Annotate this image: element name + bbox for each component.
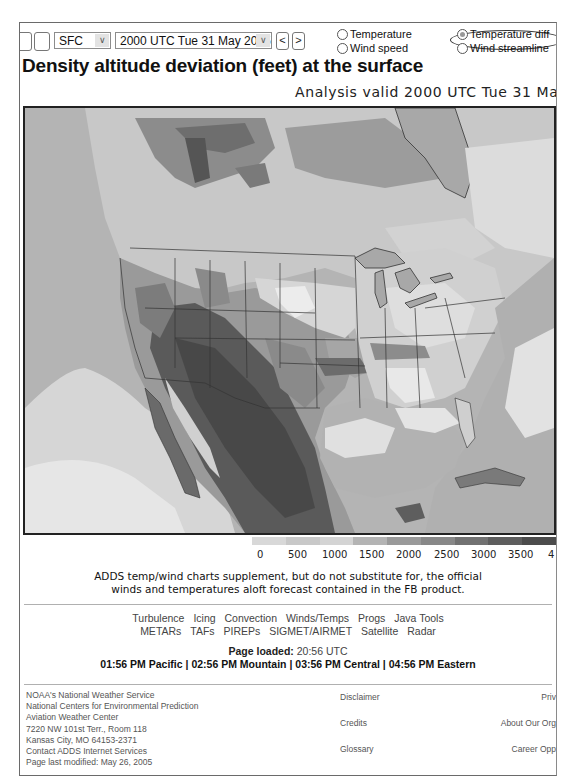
analysis-valid-subtitle: Analysis valid 2000 UTC Tue 31 May: [295, 84, 557, 100]
time-pacific: 01:56 PM Pacific: [100, 658, 182, 670]
radio-wind-streamline[interactable]: Wind streamline: [457, 42, 549, 54]
footer-line: Kansas City, MO 64153-2371: [26, 735, 198, 746]
link-java-tools[interactable]: Java Tools: [394, 612, 443, 624]
footer-last-modified: Page last modified: May 26, 2005: [26, 757, 198, 768]
chevron-down-icon: ∨: [95, 34, 109, 47]
link-winds-temps[interactable]: Winds/Temps: [286, 612, 349, 624]
radio-selected-icon: [457, 29, 468, 40]
link-privacy[interactable]: Priv: [541, 692, 556, 702]
footer-line: 7220 NW 101st Terr., Room 118: [26, 724, 198, 735]
footer-line[interactable]: NOAA's National Weather Service: [26, 690, 198, 701]
legend-label: 1000: [322, 549, 347, 560]
page-frame: SFC ∨ 2000 UTC Tue 31 May 2005 ∨ < > Tem…: [19, 22, 557, 776]
divider: [24, 604, 552, 605]
legend-label: 4: [548, 549, 554, 560]
radio-label: Temperature diff: [470, 28, 549, 40]
nav-links-row-2: METARs TAFs PIREPs SIGMET/AIRMET Satelli…: [20, 625, 556, 638]
disclaimer-line-1: ADDS temp/wind charts supplement, but do…: [20, 570, 556, 583]
legend-label: 2000: [396, 549, 421, 560]
legend-label: 3000: [471, 549, 496, 560]
previous-time-button[interactable]: <: [276, 32, 289, 50]
page-loaded: Page loaded: 20:56 UTC: [20, 645, 556, 657]
footer-contact-link[interactable]: Contact ADDS Internet Services: [26, 746, 198, 757]
legend-swatch: [455, 537, 489, 545]
radio-label: Wind streamline: [470, 42, 549, 54]
page-loaded-label: Page loaded:: [228, 645, 293, 657]
footer-address: NOAA's National Weather Service National…: [26, 690, 198, 768]
radio-circle-icon: [337, 29, 348, 40]
legend-label: 3500: [508, 549, 533, 560]
radio-circle-icon: [457, 43, 468, 54]
radio-temperature-diff[interactable]: Temperature diff: [457, 28, 549, 40]
checkbox-1[interactable]: [19, 32, 32, 51]
radio-temperature[interactable]: Temperature: [337, 28, 412, 40]
link-turbulence[interactable]: Turbulence: [132, 612, 184, 624]
legend-swatch: [286, 537, 320, 545]
nav-links-row-1: Turbulence Icing Convection Winds/Temps …: [20, 612, 556, 625]
checkbox-2[interactable]: [34, 32, 50, 51]
radio-circle-icon: [337, 43, 348, 54]
legend-label: 500: [288, 549, 307, 560]
page-loaded-value: 20:56 UTC: [297, 645, 348, 657]
time-select-value: 2000 UTC Tue 31 May 2005: [120, 34, 271, 48]
disclaimer-line-2: winds and temperatures aloft forecast co…: [20, 583, 556, 596]
time-eastern: 04:56 PM Eastern: [389, 658, 476, 670]
level-select-value: SFC: [59, 34, 83, 48]
toolbar: SFC ∨ 2000 UTC Tue 31 May 2005 ∨ < > Tem…: [20, 31, 556, 51]
link-convection[interactable]: Convection: [225, 612, 278, 624]
legend-label: 0: [257, 549, 263, 560]
link-about-our-org[interactable]: About Our Org: [501, 718, 556, 728]
legend-swatch: [320, 537, 354, 545]
legend-swatch: [353, 537, 387, 545]
map-graphic: [25, 108, 554, 533]
time-central: 03:56 PM Central: [295, 658, 380, 670]
disclaimer-text: ADDS temp/wind charts supplement, but do…: [20, 570, 556, 596]
separator: |: [287, 658, 296, 670]
link-icing[interactable]: Icing: [193, 612, 215, 624]
legend-labels: 0 500 1000 1500 2000 2500 3000 3500 4: [248, 549, 557, 563]
legend-label: 1500: [359, 549, 384, 560]
legend-color-bar: [252, 537, 556, 545]
legend-label: 2500: [434, 549, 459, 560]
legend-swatch: [421, 537, 455, 545]
link-disclaimer[interactable]: Disclaimer: [340, 692, 380, 702]
next-time-button[interactable]: >: [292, 32, 305, 50]
radio-label: Wind speed: [350, 42, 408, 54]
density-altitude-map[interactable]: [23, 106, 556, 535]
link-glossary[interactable]: Glossary: [340, 744, 374, 754]
footer-line[interactable]: Aviation Weather Center: [26, 712, 198, 723]
radio-wind-speed[interactable]: Wind speed: [337, 42, 408, 54]
link-credits[interactable]: Credits: [340, 718, 367, 728]
link-sigmet-airmet[interactable]: SIGMET/AIRMET: [269, 625, 352, 637]
time-mountain: 02:56 PM Mountain: [191, 658, 286, 670]
page-title: Density altitude deviation (feet) at the…: [22, 55, 423, 77]
link-radar[interactable]: Radar: [407, 625, 436, 637]
chevron-down-icon: ∨: [256, 34, 270, 47]
local-times: 01:56 PM Pacific | 02:56 PM Mountain | 0…: [20, 658, 556, 670]
time-select[interactable]: 2000 UTC Tue 31 May 2005 ∨: [115, 32, 272, 49]
footer-line[interactable]: National Centers for Environmental Predi…: [26, 701, 198, 712]
separator: |: [380, 658, 389, 670]
radio-label: Temperature: [350, 28, 412, 40]
link-tafs[interactable]: TAFs: [190, 625, 214, 637]
divider: [24, 684, 552, 685]
link-pireps[interactable]: PIREPs: [224, 625, 261, 637]
link-progs[interactable]: Progs: [358, 612, 385, 624]
legend-swatch: [522, 537, 556, 545]
link-career-opp[interactable]: Career Opp: [512, 744, 556, 754]
link-satellite[interactable]: Satellite: [361, 625, 398, 637]
legend-swatch: [387, 537, 421, 545]
legend-swatch: [488, 537, 522, 545]
level-select[interactable]: SFC ∨: [54, 32, 111, 49]
link-metars[interactable]: METARs: [140, 625, 181, 637]
legend-swatch: [252, 537, 286, 545]
